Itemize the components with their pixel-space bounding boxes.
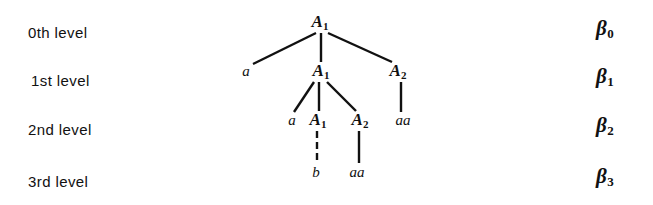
tree-node-n2A1: A1 xyxy=(309,111,326,130)
beta-subscript-0: 0 xyxy=(607,26,614,41)
tree-node-n0: A1 xyxy=(311,13,328,32)
tree-edge-n1A1-to-n2A2 xyxy=(327,82,356,111)
row-label-level-2: 2nd level xyxy=(28,122,92,137)
tree-edge-n0-to-n1a xyxy=(253,33,316,64)
tree-node-base-n2A1: A xyxy=(309,110,320,129)
beta-label-0: β0 xyxy=(596,18,614,40)
beta-subscript-2: 2 xyxy=(607,123,614,138)
row-label-level-1: 1st level xyxy=(31,73,90,88)
tree-node-base-n0: A xyxy=(311,12,322,31)
tree-node-n2a: a xyxy=(288,113,296,128)
tree-node-base-n2A2: A xyxy=(351,110,362,129)
tree-node-n1A1: A1 xyxy=(312,62,329,81)
beta-label-2: β2 xyxy=(596,115,614,137)
tree-edge-n1A1-to-n2a xyxy=(294,82,314,112)
beta-base-1: β xyxy=(596,64,607,88)
tree-node-subscript-n1A1: 1 xyxy=(324,68,330,80)
beta-label-1: β1 xyxy=(596,66,614,88)
derivation-tree-figure: 0th level 1st level 2nd level 3rd level … xyxy=(0,0,653,205)
tree-node-base-n2a: a xyxy=(288,112,296,128)
tree-node-base-n3b: b xyxy=(312,164,320,180)
tree-node-base-n1A2: A xyxy=(389,61,400,80)
tree-node-n1A2: A2 xyxy=(389,62,406,81)
tree-node-n3b: b xyxy=(312,165,320,180)
beta-base-0: β xyxy=(596,16,607,40)
beta-label-3: β3 xyxy=(596,166,614,188)
tree-node-base-n1A1: A xyxy=(312,61,323,80)
row-label-level-0: 0th level xyxy=(28,25,87,40)
row-label-level-3: 3rd level xyxy=(28,174,88,189)
tree-edge-n0-to-n1A2 xyxy=(328,33,392,62)
tree-node-base-n2aa: aa xyxy=(396,112,411,128)
tree-node-subscript-n0: 1 xyxy=(323,19,329,31)
tree-node-n2aa: aa xyxy=(396,113,411,128)
beta-base-2: β xyxy=(596,113,607,137)
tree-node-base-n1a: a xyxy=(242,63,250,79)
tree-node-subscript-n2A2: 2 xyxy=(363,117,369,129)
tree-node-n3aa: aa xyxy=(350,165,365,180)
tree-node-base-n3aa: aa xyxy=(350,164,365,180)
tree-node-subscript-n2A1: 1 xyxy=(321,117,327,129)
tree-node-n2A2: A2 xyxy=(351,111,368,130)
beta-base-3: β xyxy=(596,164,607,188)
beta-subscript-1: 1 xyxy=(607,74,614,89)
tree-node-n1a: a xyxy=(242,64,250,79)
tree-node-subscript-n1A2: 2 xyxy=(401,68,407,80)
beta-subscript-3: 3 xyxy=(607,174,614,189)
